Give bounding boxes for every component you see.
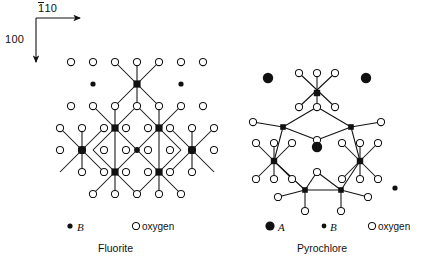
caption-pyrochlore: Pyrochlore: [297, 242, 347, 254]
crystal-structure-figure: 110 100: [0, 0, 424, 269]
legend-label-b-left: B: [77, 221, 84, 233]
legend-oxygen-circle-left: [132, 222, 139, 229]
legend-symbols-layer: [0, 0, 424, 269]
legend-b-dot-left: [67, 223, 72, 228]
legend-oxygen-circle-right: [368, 222, 375, 229]
legend-label-oxygen-right: oxygen: [378, 221, 410, 232]
caption-fluorite: Fluorite: [98, 242, 133, 254]
legend-a-dot-right: [265, 221, 274, 230]
legend-label-a-right: A: [278, 221, 285, 233]
legend-label-b-right: B: [330, 221, 337, 233]
legend-label-oxygen-left: oxygen: [142, 221, 174, 232]
legend-b-dot-right: [322, 224, 327, 229]
